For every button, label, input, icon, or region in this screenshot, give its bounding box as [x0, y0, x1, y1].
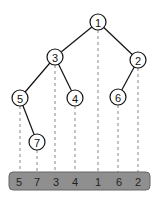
svg-text:3: 3 [52, 52, 58, 64]
tree-node-4: 4 [67, 90, 83, 106]
sequence-item: 3 [53, 176, 59, 188]
svg-text:1: 1 [95, 17, 101, 29]
tree-node-2: 2 [130, 52, 146, 68]
sequence-item: 1 [95, 176, 101, 188]
svg-text:2: 2 [135, 55, 141, 67]
svg-text:4: 4 [72, 93, 78, 105]
sequence-item: 6 [116, 176, 122, 188]
tree-node-3: 3 [47, 49, 63, 65]
svg-text:5: 5 [17, 93, 23, 105]
tree-node-5: 5 [12, 90, 28, 106]
sequence-item: 4 [72, 176, 78, 188]
svg-text:7: 7 [34, 137, 40, 149]
svg-text:6: 6 [115, 92, 121, 104]
sequence-item: 2 [135, 176, 141, 188]
inorder-sequence-bar: 5 7 3 4 1 6 2 [9, 172, 150, 190]
tree-node-1: 1 [90, 14, 106, 30]
tree-edges [20, 22, 138, 142]
tree-node-6: 6 [110, 89, 126, 105]
tree-node-7: 7 [29, 134, 45, 150]
sequence-item: 7 [34, 176, 40, 188]
tree-diagram: 1 3 2 5 4 6 7 5 7 3 4 1 6 2 [0, 0, 160, 197]
sequence-item: 5 [16, 176, 22, 188]
